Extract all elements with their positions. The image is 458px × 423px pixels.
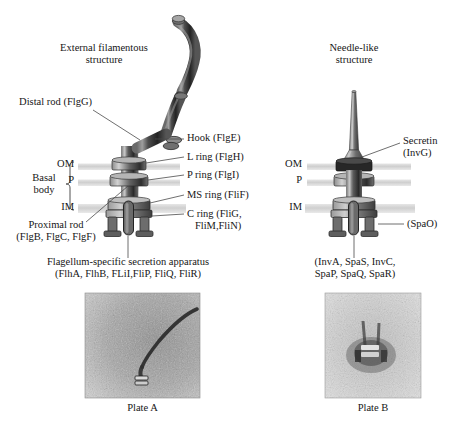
hook-segment xyxy=(163,93,187,150)
label-distal-rod: Distal rod (FlgG) xyxy=(2,96,92,108)
label-p-ring: P ring (FlgI) xyxy=(187,169,239,181)
label-spao: (SpaO) xyxy=(407,218,437,230)
label-hook: Hook (FlgE) xyxy=(187,132,240,144)
micrograph-plate-b xyxy=(325,293,421,398)
p-ring xyxy=(110,173,148,186)
label-om-left: OM xyxy=(44,158,74,170)
label-external-filamentous-structure: External filamentous structure xyxy=(34,42,174,66)
label-l-ring: L ring (FlgH) xyxy=(187,151,244,163)
label-p-right: P xyxy=(272,174,302,186)
label-ms-ring: MS ring (FliF) xyxy=(187,189,249,201)
micrograph-plate-a xyxy=(85,293,200,398)
label-ttss-secretion-apparatus: (InvA, SpaS, InvC, SpaP, SpaQ, SpaR) xyxy=(284,256,426,280)
label-proximal-rod: Proximal rod (FlgB, FlgC, FlgF) xyxy=(4,219,108,243)
label-needle-like-structure: Needle-like structure xyxy=(296,42,412,66)
label-im-left: IM xyxy=(44,201,74,213)
label-c-ring: C ring (FliG, FliM,FliN) xyxy=(187,208,242,232)
label-im-right: IM xyxy=(272,201,302,213)
secretin-ring xyxy=(336,158,372,171)
external-filament xyxy=(172,15,195,92)
caption-plate-a: Plate A xyxy=(85,402,200,413)
label-secretin: Secretin (InvG) xyxy=(403,135,437,159)
needle-structure xyxy=(342,90,366,163)
figure-canvas: External filamentous structure Distal ro… xyxy=(0,0,458,423)
export-apparatus-core xyxy=(124,201,134,235)
right-export-core xyxy=(349,201,359,235)
label-om-right: OM xyxy=(272,158,302,170)
caption-plate-b: Plate B xyxy=(318,402,428,413)
label-flagellum-secretion-apparatus: Flagellum-specific secretion apparatus (… xyxy=(4,256,252,280)
l-ring xyxy=(112,157,146,170)
label-p-left: P xyxy=(44,174,74,186)
